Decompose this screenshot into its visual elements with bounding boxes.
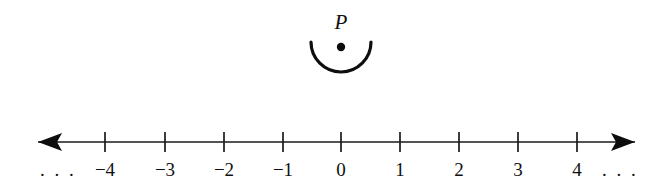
left-ellipsis-label: . . . [40, 159, 76, 180]
number-line-figure: P −4−3−2−101234 . . . . . . [0, 0, 669, 191]
tick-label: −4 [95, 159, 116, 180]
tick-label: −1 [273, 159, 293, 180]
point-dot-icon [337, 43, 345, 51]
tick-label: 3 [513, 159, 523, 180]
tick-label: 0 [336, 159, 346, 180]
number-line-axis [38, 133, 635, 151]
right-ellipsis-label: . . . [602, 159, 638, 180]
point-p-label: P [334, 10, 348, 34]
tick-label: 2 [454, 159, 464, 180]
tick-label: 1 [395, 159, 405, 180]
tick-label: −3 [155, 159, 175, 180]
tick-label: 4 [572, 159, 582, 180]
point-p-marker: P [311, 10, 371, 72]
tick-label-group: −4−3−2−101234 [95, 159, 582, 180]
tick-label: −2 [214, 159, 234, 180]
